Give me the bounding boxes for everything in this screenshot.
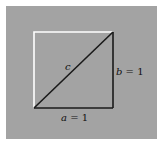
hypotenuse-line: [34, 32, 113, 108]
side-b-label: b = 1: [116, 66, 144, 77]
triangle-diagram: c b = 1 a = 1: [0, 0, 168, 147]
hypotenuse-label: c: [65, 61, 71, 72]
side-a-label: a = 1: [61, 112, 88, 123]
